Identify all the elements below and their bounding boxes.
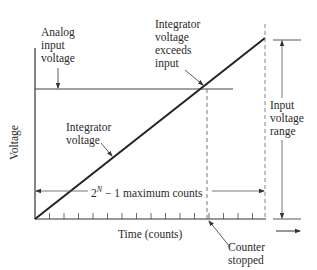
- counter-stopped-label: Counter stopped: [228, 241, 265, 267]
- x-axis-label: Time (counts): [118, 228, 182, 241]
- counter-stopped-pointer-arrow: [209, 221, 230, 247]
- exceeds-input-pointer-arrow: [185, 70, 203, 85]
- max-counts-label: 2N − 1 maximum counts: [89, 183, 205, 200]
- integrator-voltage-label: Integrator voltage: [66, 121, 111, 147]
- input-voltage-range-label: Input voltage range: [270, 99, 304, 138]
- y-axis-label: Voltage: [8, 110, 20, 160]
- x-axis-ticks: [50, 213, 253, 219]
- adc-timing-diagram: Analog input voltage Integrator voltage …: [0, 0, 317, 270]
- analog-input-voltage-label: Analog input voltage: [41, 26, 75, 65]
- integrator-exceeds-input-label: Integrator voltage exceeds input: [155, 18, 200, 70]
